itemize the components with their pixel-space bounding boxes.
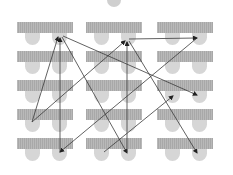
furniture-layer bbox=[17, 0, 213, 161]
desk bbox=[86, 22, 142, 33]
desk bbox=[157, 51, 213, 62]
chair bbox=[192, 120, 207, 132]
chair bbox=[52, 149, 67, 161]
chair bbox=[94, 91, 109, 103]
seating-diagram bbox=[0, 0, 233, 175]
chair bbox=[94, 33, 109, 45]
seating-diagram-svg bbox=[0, 0, 233, 175]
desk bbox=[17, 22, 73, 33]
chair bbox=[165, 33, 180, 45]
chair bbox=[25, 33, 40, 45]
chair bbox=[94, 149, 109, 161]
chair bbox=[192, 62, 207, 74]
desk bbox=[17, 138, 73, 149]
chair bbox=[192, 33, 207, 45]
desk bbox=[86, 80, 142, 91]
chair bbox=[25, 149, 40, 161]
chair bbox=[25, 62, 40, 74]
desk bbox=[157, 138, 213, 149]
chair bbox=[52, 120, 67, 132]
chair bbox=[165, 62, 180, 74]
desk bbox=[17, 51, 73, 62]
chair bbox=[121, 149, 136, 161]
desk bbox=[17, 80, 73, 91]
chair bbox=[52, 62, 67, 74]
chair bbox=[165, 149, 180, 161]
chair bbox=[25, 91, 40, 103]
chair bbox=[192, 149, 207, 161]
desk bbox=[157, 22, 213, 33]
seat-change-arrow bbox=[129, 38, 197, 39]
chair bbox=[121, 91, 136, 103]
desk bbox=[157, 109, 213, 120]
chair bbox=[52, 33, 67, 45]
chair bbox=[52, 91, 67, 103]
chair bbox=[165, 91, 180, 103]
desk bbox=[86, 109, 142, 120]
desk bbox=[86, 51, 142, 62]
chair bbox=[192, 91, 207, 103]
chair bbox=[121, 62, 136, 74]
chair bbox=[121, 120, 136, 132]
teacher-seat bbox=[107, 0, 121, 7]
chair bbox=[94, 62, 109, 74]
